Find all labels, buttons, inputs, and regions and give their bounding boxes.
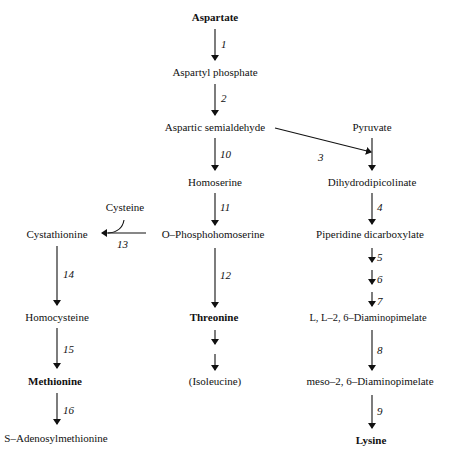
step-12-label: 12 — [220, 269, 231, 281]
node-aspartyl-phosphate: Aspartyl phosphate — [172, 66, 257, 79]
step-5-label: 5 — [377, 251, 383, 263]
step-3-label: 3 — [318, 151, 324, 163]
node-homocysteine: Homocysteine — [25, 311, 89, 324]
node-isoleucine: (Isoleucine) — [189, 375, 242, 388]
node-aspartate: Aspartate — [192, 11, 238, 24]
arrow-cysteine — [108, 220, 124, 233]
step-10-label: 10 — [220, 148, 231, 160]
node-piperidine-dicarboxylate: Piperidine dicarboxylate — [316, 228, 424, 241]
node-s-adenosylmethionine: S–Adenosylmethionine — [4, 432, 107, 445]
node-methionine: Methionine — [28, 375, 82, 388]
step-6-label: 6 — [377, 273, 383, 285]
node-pyruvate: Pyruvate — [352, 121, 391, 134]
step-14-label: 14 — [63, 268, 74, 280]
node-lysine: Lysine — [356, 434, 387, 447]
node-cysteine: Cysteine — [106, 201, 145, 214]
node-homoserine: Homoserine — [188, 176, 242, 189]
step-8-label: 8 — [377, 344, 383, 356]
node-aspartic-semialdehyde: Aspartic semialdehyde — [165, 121, 266, 134]
step-7-label: 7 — [377, 295, 383, 307]
node-ll-diaminopimelate: L, L–2, 6–Diaminopimelate — [309, 311, 426, 324]
node-threonine: Threonine — [190, 311, 239, 324]
step-4-label: 4 — [377, 201, 383, 213]
node-o-phosphohomoserine: O–Phosphohomoserine — [162, 228, 265, 241]
node-meso-diaminopimelate: meso–2, 6–Diaminopimelate — [306, 375, 433, 388]
node-cystathionine: Cystathionine — [26, 228, 87, 241]
step-2-label: 2 — [221, 92, 227, 104]
step-16-label: 16 — [63, 404, 74, 416]
step-15-label: 15 — [63, 343, 74, 355]
step-11-label: 11 — [220, 201, 230, 213]
step-9-label: 9 — [377, 405, 383, 417]
step-13-label: 13 — [117, 238, 128, 250]
node-dihydrodipicolinate: Dihydrodipicolinate — [328, 176, 417, 189]
step-1-label: 1 — [221, 38, 227, 50]
